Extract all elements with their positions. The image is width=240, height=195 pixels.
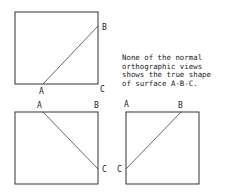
view-outline (15, 112, 98, 184)
surface-edge-a-c (43, 112, 98, 169)
label-b: B (178, 101, 183, 110)
view-bottom-left: A B C (15, 101, 107, 184)
orthographic-diagram: A B C None of the normal orthographic vi… (0, 0, 240, 195)
view-top-left: A B C (15, 12, 107, 96)
label-c: C (102, 165, 107, 174)
note-text: None of the normal orthographic views sh… (122, 53, 212, 88)
surface-edge-a-b (43, 26, 98, 84)
label-c: C (117, 165, 122, 174)
label-a: A (37, 101, 42, 110)
view-outline (126, 112, 199, 184)
view-outline (15, 12, 98, 84)
label-b: B (94, 101, 99, 110)
label-a: A (124, 100, 129, 109)
surface-edge-c-b (126, 112, 181, 169)
view-bottom-right: A B C (117, 100, 199, 184)
label-c: C (100, 85, 105, 94)
label-b: B (102, 23, 107, 32)
label-a: A (39, 87, 44, 96)
note-line-4: of surface A-B-C. (122, 79, 198, 88)
